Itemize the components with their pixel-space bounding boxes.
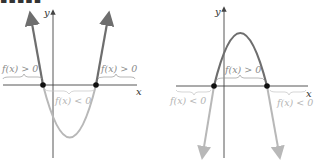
label-left-negative: f(x) < 0 [169, 95, 206, 106]
graph-downward-parabola: y x f(x) > 0 f(x) < 0 f(x) < 0 [0, 0, 315, 161]
y-axis-label: y [214, 6, 221, 17]
root-point-right [264, 83, 270, 89]
parabola-sign-diagram: ▪▪▪▪▪ y x f(x) > 0 f(x) > 0 f(x) < 0 [0, 0, 315, 161]
label-right-negative: f(x) < 0 [276, 97, 313, 108]
label-middle-positive: f(x) > 0 [224, 64, 261, 75]
root-point-left [211, 83, 217, 89]
brace-right-negative [270, 90, 306, 95]
